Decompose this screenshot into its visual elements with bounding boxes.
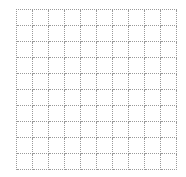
grid-cell [33, 106, 49, 122]
grid-cell [65, 106, 81, 122]
grid-cell [161, 154, 177, 170]
grid-cell [113, 138, 129, 154]
grid-cell [81, 122, 97, 138]
grid-cell [81, 26, 97, 42]
grid-cell [81, 10, 97, 26]
grid-cell [33, 74, 49, 90]
grid-cell [65, 138, 81, 154]
grid-cell [81, 74, 97, 90]
grid-cell [161, 74, 177, 90]
grid-cell [113, 74, 129, 90]
grid-cell [145, 138, 161, 154]
grid-cell [129, 154, 145, 170]
grid-cell [145, 10, 161, 26]
grid-cell [97, 90, 113, 106]
grid-cell [113, 58, 129, 74]
grid-cell [17, 26, 33, 42]
grid-cell [129, 58, 145, 74]
grid-cell [33, 138, 49, 154]
grid-cell [49, 138, 65, 154]
grid-cell [49, 122, 65, 138]
grid-cell [49, 42, 65, 58]
grid-cell [49, 10, 65, 26]
grid-cell [129, 10, 145, 26]
grid-cell [161, 58, 177, 74]
grid-cell [17, 74, 33, 90]
grid-cell [97, 122, 113, 138]
grid-cell [161, 26, 177, 42]
grid-cell [113, 26, 129, 42]
grid-cell [49, 154, 65, 170]
grid-cell [161, 122, 177, 138]
grid-cell [49, 74, 65, 90]
grid-cell [81, 138, 97, 154]
dotted-grid [16, 9, 177, 170]
grid-cell [129, 138, 145, 154]
grid-cell [145, 90, 161, 106]
grid-cell [113, 122, 129, 138]
grid-cell [33, 26, 49, 42]
grid-cell [161, 138, 177, 154]
grid-cell [65, 58, 81, 74]
grid-cell [17, 58, 33, 74]
grid-cell [65, 74, 81, 90]
grid-cell [49, 26, 65, 42]
grid-cell [113, 10, 129, 26]
grid-cell [81, 90, 97, 106]
grid-cell [145, 154, 161, 170]
grid-cell [65, 10, 81, 26]
canvas [0, 0, 186, 177]
grid-cell [33, 90, 49, 106]
grid-cell [129, 74, 145, 90]
grid-cell [129, 90, 145, 106]
grid-cell [145, 74, 161, 90]
grid-cell [97, 26, 113, 42]
grid-cell [33, 42, 49, 58]
grid-cell [145, 58, 161, 74]
grid-cell [49, 58, 65, 74]
grid-cell [161, 42, 177, 58]
grid-cell [81, 106, 97, 122]
grid-cell [81, 42, 97, 58]
grid-cell [113, 42, 129, 58]
grid-cell [145, 42, 161, 58]
grid-cell [33, 122, 49, 138]
grid-cell [129, 26, 145, 42]
grid-cell [17, 90, 33, 106]
grid-cell [17, 42, 33, 58]
grid-cell [33, 10, 49, 26]
grid-cell [97, 106, 113, 122]
grid-cell [81, 154, 97, 170]
grid-cell [97, 58, 113, 74]
grid-cell [81, 58, 97, 74]
grid-cell [33, 154, 49, 170]
grid-cell [97, 42, 113, 58]
grid-cell [33, 58, 49, 74]
grid-cell [145, 26, 161, 42]
grid-cell [97, 74, 113, 90]
grid-cell [65, 154, 81, 170]
grid-cell [145, 106, 161, 122]
grid-cell [17, 138, 33, 154]
grid-cell [161, 106, 177, 122]
grid-cell [65, 122, 81, 138]
grid-cell [49, 106, 65, 122]
grid-cell [161, 10, 177, 26]
grid-cell [113, 106, 129, 122]
grid-cell [17, 122, 33, 138]
grid-cell [161, 90, 177, 106]
grid-cell [97, 138, 113, 154]
grid-cell [145, 122, 161, 138]
grid-cell [17, 106, 33, 122]
grid-cell [97, 154, 113, 170]
grid-cell [17, 154, 33, 170]
grid-cell [129, 42, 145, 58]
grid-cell [129, 106, 145, 122]
grid-cell [65, 90, 81, 106]
grid-cell [49, 90, 65, 106]
grid-cell [129, 122, 145, 138]
grid-cell [17, 10, 33, 26]
grid-cell [65, 26, 81, 42]
grid-cell [65, 42, 81, 58]
grid-cell [113, 90, 129, 106]
